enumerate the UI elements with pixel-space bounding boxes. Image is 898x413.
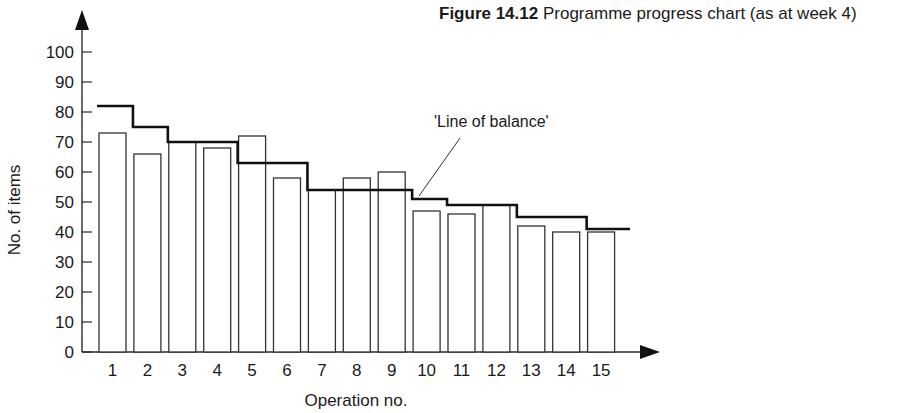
x-tick-label: 5 — [247, 361, 256, 380]
y-tick-label: 20 — [55, 283, 74, 302]
x-tick-label: 4 — [212, 361, 221, 380]
bar — [204, 148, 231, 352]
x-tick-label: 1 — [108, 361, 117, 380]
y-tick-label: 50 — [55, 193, 74, 212]
y-tick-label: 40 — [55, 223, 74, 242]
y-tick-label: 60 — [55, 163, 74, 182]
y-tick-label: 70 — [55, 133, 74, 152]
annotation: 'Line of balance' — [419, 113, 549, 196]
bar — [518, 226, 545, 352]
y-tick-label: 100 — [46, 43, 74, 62]
bar — [588, 232, 615, 352]
bar — [343, 178, 370, 352]
y-axis-arrow-icon — [75, 10, 89, 30]
bar — [99, 133, 126, 352]
annotation-leader — [419, 138, 460, 196]
y-axis: 0102030405060708090100 — [46, 10, 92, 362]
x-tick-label: 2 — [143, 361, 152, 380]
y-axis-label: No. of items — [5, 165, 24, 256]
annotation-label: 'Line of balance' — [434, 113, 549, 130]
bar — [483, 205, 510, 352]
bar — [413, 211, 440, 352]
bar — [553, 232, 580, 352]
x-tick-label: 14 — [557, 361, 576, 380]
x-tick-label: 8 — [352, 361, 361, 380]
x-tick-label: 7 — [317, 361, 326, 380]
x-tick-label: 13 — [522, 361, 541, 380]
bar — [378, 172, 405, 352]
bar — [308, 190, 335, 352]
bar — [169, 142, 196, 352]
bars — [99, 133, 615, 352]
x-tick-label: 11 — [453, 361, 471, 380]
x-tick-label: 15 — [592, 361, 611, 380]
x-tick-label: 10 — [417, 361, 436, 380]
bar — [134, 154, 161, 352]
y-tick-label: 10 — [55, 313, 74, 332]
bar — [448, 214, 475, 352]
y-tick-label: 30 — [55, 253, 74, 272]
x-axis-label: Operation no. — [304, 391, 407, 410]
y-tick-label: 90 — [55, 73, 74, 92]
x-tick-label: 6 — [282, 361, 291, 380]
bar — [239, 136, 266, 352]
x-tick-label: 9 — [387, 361, 396, 380]
progress-chart: 0102030405060708090100 12345678910111213… — [0, 0, 898, 413]
y-tick-label: 80 — [55, 103, 74, 122]
x-axis-arrow-icon — [640, 345, 660, 359]
x-tick-label: 12 — [487, 361, 506, 380]
x-tick-label: 3 — [178, 361, 187, 380]
bar — [274, 178, 301, 352]
y-tick-label: 0 — [65, 343, 74, 362]
